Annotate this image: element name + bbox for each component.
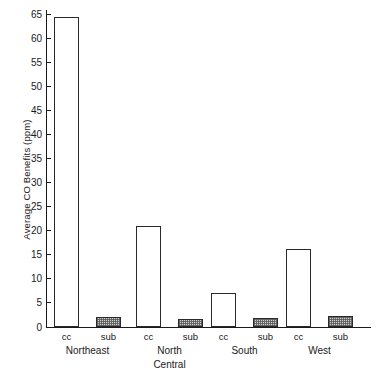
group-label-west: West	[265, 344, 375, 358]
y-axis-tick-label: 20	[0, 224, 42, 237]
y-axis-tick-label: 65	[0, 8, 42, 21]
y-axis-tick-label: 35	[0, 152, 42, 165]
x-axis-labels: ccsubccsubccsubccsubNortheastNorthCentra…	[46, 330, 371, 385]
bar-tick-label: cc	[279, 330, 319, 343]
bar-tick-label: sub	[321, 330, 361, 343]
bar-west-cc	[286, 249, 311, 327]
bar-northeast-cc	[54, 17, 79, 327]
bar-tick-label: sub	[89, 330, 129, 343]
y-axis-tick-label: 15	[0, 248, 42, 261]
x-axis-line	[46, 327, 371, 328]
y-axis-tick-label: 40	[0, 128, 42, 141]
y-axis-tick-label: 55	[0, 56, 42, 69]
y-axis-tick-label: 0	[0, 321, 42, 334]
y-axis-tick-label: 25	[0, 200, 42, 213]
bar-south-cc	[211, 293, 236, 327]
y-axis-tick-label: 45	[0, 104, 42, 117]
bar-tick-label: cc	[129, 330, 169, 343]
y-axis-tick-label: 50	[0, 80, 42, 93]
y-axis-tick-label: 60	[0, 32, 42, 45]
y-axis-tick-label: 10	[0, 272, 42, 285]
bars-layer	[46, 0, 371, 327]
group-label-line: North	[157, 345, 181, 356]
group-label-line: Central	[115, 358, 225, 372]
bar-chart: Average CO Benefits (ppm) 05101520253035…	[0, 0, 381, 385]
y-axis-tick-label: 5	[0, 296, 42, 309]
bar-north-central-sub	[178, 319, 203, 327]
group-label-line: West	[308, 345, 331, 356]
y-axis-tick-label: 30	[0, 176, 42, 189]
bar-west-sub	[328, 316, 353, 327]
bar-south-sub	[253, 318, 278, 327]
bar-northeast-sub	[96, 317, 121, 327]
group-label-line: Northeast	[66, 345, 109, 356]
bar-north-central-cc	[136, 226, 161, 327]
group-label-line: South	[231, 345, 257, 356]
bar-tick-label: cc	[47, 330, 87, 343]
bar-tick-label: cc	[204, 330, 244, 343]
